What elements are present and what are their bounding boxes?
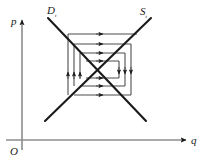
figure-canvas: p q O Dt St (0, 0, 206, 165)
supply-curve-label: St (140, 5, 148, 19)
axes-group (6, 20, 186, 150)
quantity-axis-label: q (191, 134, 197, 146)
demand-label-main: D (46, 4, 55, 16)
supply-label-subscript: t (146, 14, 148, 19)
curve-labels-group: Dt St (46, 4, 148, 19)
origin-label: O (10, 145, 18, 157)
demand-label-subscript: t (55, 13, 57, 18)
demand-curve-label: Dt (46, 4, 57, 18)
price-axis-label: p (10, 15, 17, 27)
cobweb-diagram: p q O Dt St (0, 0, 206, 165)
